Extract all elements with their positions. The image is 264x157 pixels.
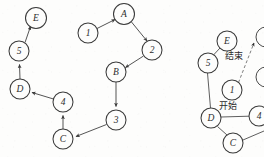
annotation-end-label: 结束: [225, 50, 243, 61]
node-D-label: D: [16, 84, 24, 94]
edge-D-4: [221, 116, 249, 117]
node-right-1: 1: [222, 80, 242, 100]
node-D: D: [10, 79, 30, 99]
node-right-4-label: 4: [257, 111, 262, 121]
edge-D-to-5: [20, 65, 21, 80]
node-E: E: [26, 8, 47, 29]
node-B: B: [106, 62, 126, 82]
edge-A-to-2: [132, 22, 148, 41]
edge-5-to-E: [25, 27, 31, 43]
node-B-label: B: [113, 67, 119, 77]
node-right-C-label: C: [230, 138, 237, 148]
node-4-label: 4: [61, 97, 66, 107]
edge-E-5: [214, 48, 221, 55]
node-5-label: 5: [17, 46, 22, 56]
node-C-label: C: [60, 134, 67, 144]
edge-2-to-B: [126, 56, 144, 68]
node-right-4: 4: [249, 106, 264, 126]
edge-1-dashed: [239, 43, 255, 83]
edge-5-D: [208, 73, 211, 108]
node-C: C: [53, 129, 73, 149]
node-1-label: 1: [86, 28, 91, 38]
node-right-D-label: D: [207, 113, 215, 123]
node-2: 2: [142, 40, 162, 60]
node-4: 4: [53, 92, 73, 112]
node-right-D: D: [201, 108, 221, 128]
edge-3-to-C: [76, 125, 107, 137]
node-2-label: 2: [150, 45, 155, 55]
node-3: 3: [106, 110, 126, 130]
edge-C-offpage: [243, 131, 264, 140]
clipped-node-lower: [256, 67, 264, 87]
right-graph-nodes: E 5 1 D 4 C: [198, 31, 264, 153]
node-right-5-label: 5: [206, 58, 211, 68]
node-right-C: C: [223, 133, 243, 153]
node-1: 1: [78, 23, 98, 43]
node-right-5: 5: [198, 53, 218, 73]
node-A: A: [114, 4, 135, 25]
edge-4-to-D: [32, 93, 54, 100]
clipped-node-upper: [256, 27, 264, 47]
node-right-E-label: E: [223, 36, 230, 46]
diagram-canvas: E 5 D 4 C 3: [0, 0, 264, 157]
right-graph-clipped-nodes: [256, 27, 264, 87]
annotation-start-label: 开始: [219, 100, 237, 111]
scanned-page: E 5 D 4 C 3: [0, 0, 264, 157]
node-3-label: 3: [113, 115, 119, 125]
node-E-label: E: [32, 13, 39, 23]
left-graph-nodes: E 5 D 4 C 3: [9, 4, 162, 150]
node-right-1-label: 1: [230, 85, 235, 95]
node-right-E: E: [217, 31, 237, 51]
edge-D-C: [218, 127, 228, 136]
edge-1-to-A: [97, 20, 115, 29]
node-5: 5: [9, 41, 29, 61]
node-A-label: A: [120, 9, 127, 19]
